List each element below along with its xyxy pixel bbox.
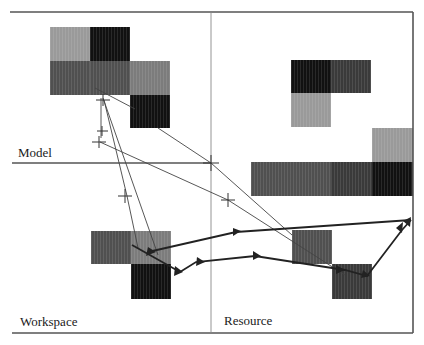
quadrant-label-model: Model <box>18 145 52 161</box>
arrow-head-icon <box>146 247 156 256</box>
arrow-head-icon <box>174 266 183 276</box>
quadrant-label-workspace: Workspace <box>20 314 77 330</box>
arrow-head-icon <box>336 265 345 274</box>
link-line <box>103 98 158 255</box>
link-line <box>100 142 228 200</box>
frame <box>10 12 413 333</box>
cross-markers <box>92 94 235 207</box>
arrow-head-icon <box>396 222 403 233</box>
line-layer <box>0 0 424 345</box>
diagram-canvas: Model Workspace Resource <box>0 0 424 345</box>
quadrant-label-resource: Resource <box>224 313 272 329</box>
link-line <box>228 200 345 275</box>
arrow-head-icon <box>196 257 205 266</box>
link-line <box>211 163 292 235</box>
model-links <box>95 88 345 275</box>
link-line <box>158 128 211 163</box>
link-line <box>104 100 127 196</box>
link-line <box>127 196 138 248</box>
arrow-head-icon <box>253 251 261 260</box>
flow-path-upper <box>148 220 411 252</box>
